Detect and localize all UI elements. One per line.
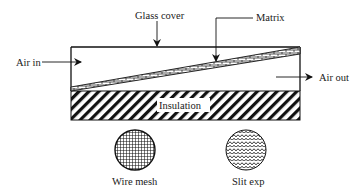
insulation-label: Insulation: [159, 100, 202, 111]
matrix-absorber: [71, 47, 300, 91]
air-in-label: Air in: [16, 57, 42, 68]
solar-air-heater-diagram: Glass cover Matrix Air in Air out Insula…: [0, 0, 364, 196]
air-out-label: Air out: [319, 72, 349, 83]
wire-mesh-sample: [115, 130, 155, 170]
matrix-label: Matrix: [256, 12, 285, 23]
matrix-leader-line: [216, 18, 253, 60]
slit-exp-sample: [226, 130, 266, 170]
glass-cover-label: Glass cover: [135, 10, 185, 21]
wire-mesh-label: Wire mesh: [112, 176, 158, 187]
slit-exp-label: Slit exp: [232, 176, 264, 187]
